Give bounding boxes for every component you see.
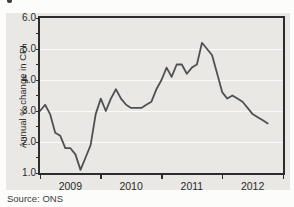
y-minor-tick-5.5 [36,33,39,34]
y-minor-tick-1.5 [36,157,39,158]
y-minor-tick-5.0 [36,49,39,50]
source-note: Source: ONS [7,193,63,204]
y-minor-tick-2.5 [36,126,39,127]
x-tick-label-2009: 2009 [48,180,92,192]
y-axis-title: Annual % change in CPI [16,18,29,176]
x-tick-2009 [40,175,42,179]
x-tick-2012 [222,175,224,179]
x-tick-2011 [161,175,163,179]
page: Annual % change in CPI 6.05.04.03.02.01.… [0,0,294,207]
chart-panel: Annual % change in CPI 6.05.04.03.02.01.… [6,13,290,190]
y-tick-label-5.0: 5.0 [6,43,36,55]
y-tick-label-4.0: 4.0 [6,74,36,86]
y-minor-tick-4.5 [36,64,39,65]
cpi-line [40,43,268,170]
y-tick-label-1.0: 1.0 [6,167,36,179]
y-minor-tick-4.0 [36,80,39,81]
y-tick-label-3.0: 3.0 [6,105,36,117]
cpi-line-chart [40,18,283,173]
x-tick-label-2012: 2012 [231,180,275,192]
y-minor-tick-6.0 [36,18,39,19]
y-minor-tick-3.5 [36,95,39,96]
x-tick-label-2011: 2011 [170,180,214,192]
y-minor-tick-3.0 [36,111,39,112]
cropped-caption-artifact [7,0,12,3]
y-tick-label-2.0: 2.0 [6,136,36,148]
x-tick-label-2010: 2010 [109,180,153,192]
y-tick-label-6.0: 6.0 [6,12,36,24]
y-minor-tick-1.0 [36,173,39,174]
x-tick-2010 [100,175,102,179]
plot-area [40,18,283,173]
y-minor-tick-2.0 [36,142,39,143]
x-tick-2013 [283,175,285,179]
